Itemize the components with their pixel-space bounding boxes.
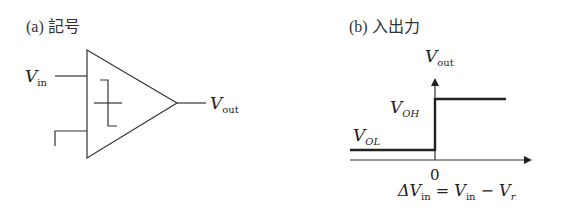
panel-a: (a) 記号 Vin Vout: [25, 18, 239, 158]
input-line-reference: [55, 131, 87, 146]
vin-label: Vin: [25, 66, 47, 88]
panel-b-title: (b) 入出力: [349, 18, 420, 36]
y-axis-label: Vout: [425, 46, 454, 68]
panel-b: (b) 入出力 Vout VOH VOL 0 ΔVin = Vin − Vr: [349, 18, 530, 202]
comparator-triangle: [87, 50, 177, 158]
vout-label: Vout: [210, 93, 239, 115]
vol-label: VOL: [353, 125, 380, 147]
voh-label: VOH: [390, 97, 419, 119]
comparator-diagram: (a) 記号 Vin Vout (b) 入出力 Vout: [0, 0, 561, 216]
x-axis-label: ΔVin = Vin − Vr: [397, 181, 517, 202]
hysteresis-icon: [94, 80, 122, 126]
panel-a-title: (a) 記号: [26, 18, 80, 36]
